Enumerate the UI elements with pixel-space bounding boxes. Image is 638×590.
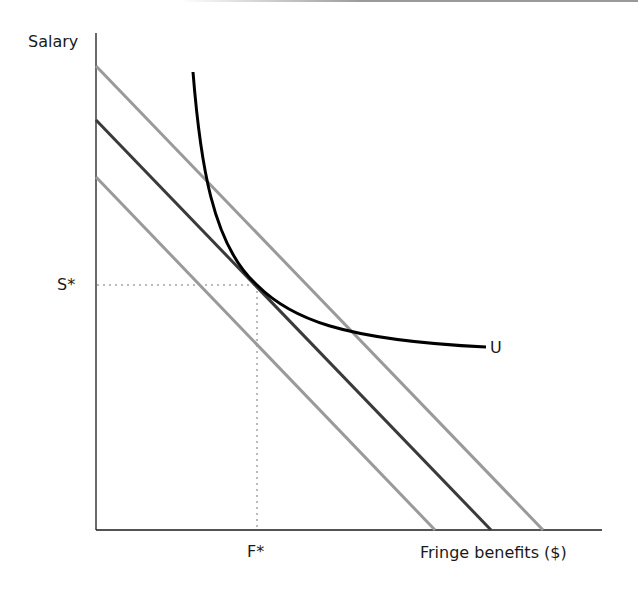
budget-line-high (96, 66, 543, 530)
x-axis-label: Fringe benefits ($) (420, 543, 567, 562)
u-curve-label: U (490, 338, 502, 357)
s-star-label: S* (57, 275, 75, 294)
y-axis-label: Salary (28, 32, 78, 51)
budget-line-low (96, 177, 435, 530)
chart-canvas (0, 0, 638, 590)
f-star-label: F* (247, 542, 264, 561)
indifference-curve-u (193, 72, 486, 347)
budget-line-tangent (96, 120, 491, 530)
